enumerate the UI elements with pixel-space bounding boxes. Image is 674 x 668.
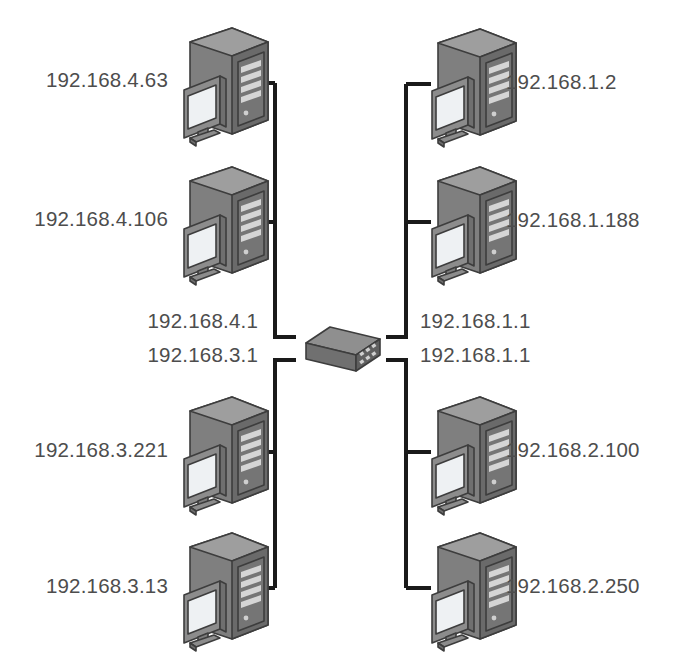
ip-label-top-right-2: 192.168.1.188 xyxy=(506,210,640,231)
ip-label-bottom-right-2: 192.168.2.250 xyxy=(506,576,640,597)
ip-label-top-right-1: 192.168.1.2 xyxy=(506,72,617,93)
host-icon-top-left-2[interactable] xyxy=(176,159,280,287)
network-switch-icon[interactable] xyxy=(300,325,386,387)
gateway-label-top-left: 192.168.4.1 xyxy=(30,311,258,332)
wire-lower-right-trunk xyxy=(386,360,406,588)
gateway-label-top-right: 192.168.1.1 xyxy=(420,311,531,332)
ip-label-bottom-left-2: 192.168.3.13 xyxy=(0,576,168,597)
host-icon-top-left-1[interactable] xyxy=(176,20,280,148)
wire-upper-right-trunk xyxy=(386,84,406,337)
gateway-label-bottom-right: 192.168.1.1 xyxy=(420,345,531,366)
host-icon-bottom-left-2[interactable] xyxy=(176,525,280,653)
ip-label-top-left-1: 192.168.4.63 xyxy=(0,70,168,91)
ip-label-bottom-right-1: 192.168.2.100 xyxy=(506,440,640,461)
ip-label-bottom-left-1: 192.168.3.221 xyxy=(0,440,168,461)
host-icon-bottom-left-1[interactable] xyxy=(176,389,280,517)
gateway-label-bottom-left: 192.168.3.1 xyxy=(30,345,258,366)
ip-label-top-left-2: 192.168.4.106 xyxy=(0,209,168,230)
network-diagram: 192.168.4.63 xyxy=(0,0,674,668)
